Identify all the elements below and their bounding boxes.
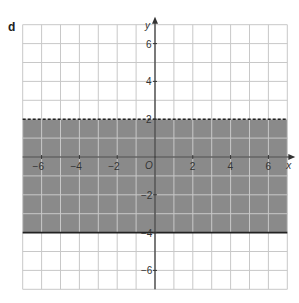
y-tick-label: −6 [141, 265, 153, 276]
x-tick-label: 6 [265, 161, 271, 172]
y-tick-label: −2 [141, 190, 153, 201]
y-tick-label: 4 [146, 76, 152, 87]
y-tick-label: 2 [146, 114, 152, 125]
y-tick-label: 6 [146, 39, 152, 50]
x-tick-label: −6 [33, 161, 45, 172]
x-axis-label: x [285, 160, 292, 171]
origin-label: O [145, 160, 153, 171]
x-tick-label: −2 [108, 161, 120, 172]
x-tick-label: 4 [228, 161, 234, 172]
inequality-graph: xyO−6−4−2246642−2−4−6 [0, 0, 299, 303]
x-tick-label: −4 [70, 161, 82, 172]
x-tick-label: 2 [190, 161, 196, 172]
y-axis-arrow-icon [152, 17, 158, 24]
y-axis-label: y [144, 20, 151, 31]
y-tick-label: −4 [141, 228, 153, 239]
